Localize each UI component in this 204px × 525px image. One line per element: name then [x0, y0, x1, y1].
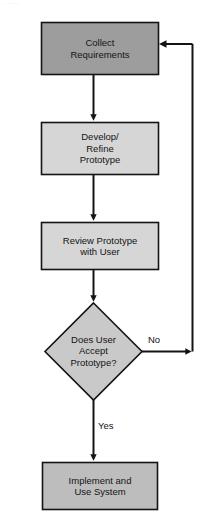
node-implement-use-system — [43, 463, 158, 510]
node-review-prototype-with-user — [42, 223, 159, 270]
edge-label-yes: Yes — [98, 420, 114, 431]
flowchart-graphics — [0, 0, 204, 525]
edge-label-no: No — [148, 334, 160, 345]
flowchart-canvas: · ···· ·· Collect Requirements Develop/ … — [0, 0, 204, 525]
node-collect-requirements — [42, 23, 159, 75]
arrowhead-into-collect-icon — [159, 40, 167, 48]
node-decision-accept-prototype — [45, 303, 142, 400]
node-develop-refine-prototype — [42, 123, 159, 175]
